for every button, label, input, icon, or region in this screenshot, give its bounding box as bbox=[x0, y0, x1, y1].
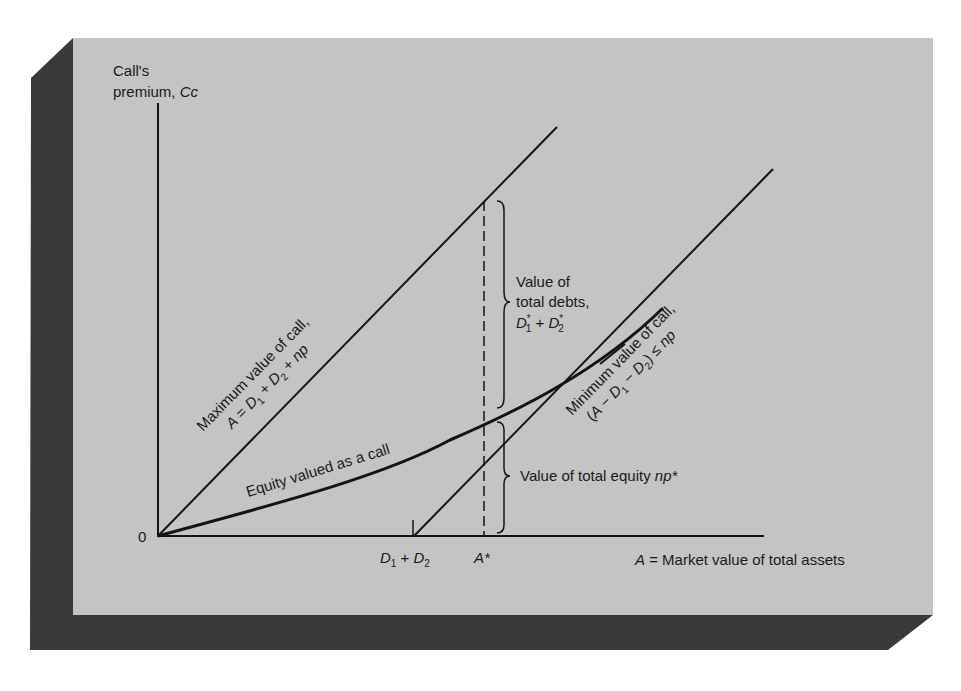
debts-label-line2: total debts, bbox=[516, 293, 589, 310]
debts-label-line1: Value of bbox=[516, 273, 571, 290]
debts-label-line3: D*1 + D*2 bbox=[516, 313, 564, 334]
origin-label: 0 bbox=[138, 528, 146, 545]
a-star-tick-label: A* bbox=[473, 549, 491, 566]
diagram-canvas: Call's premium, Cc 0 D1 + D2 A* A = Mark… bbox=[0, 0, 961, 691]
equity-value-label: Value of total equity np* bbox=[520, 467, 678, 484]
y-axis-label-line2: premium, Cc bbox=[113, 83, 199, 100]
x-axis-label: A = Market value of total assets bbox=[634, 551, 845, 568]
y-axis-label-line1: Call's bbox=[113, 62, 149, 79]
